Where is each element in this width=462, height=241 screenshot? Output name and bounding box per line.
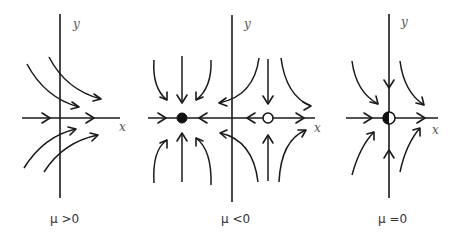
panel-mu-zero: y x μ =0 [346,14,439,226]
trajectory-curve [44,135,98,172]
trajectory-curve [352,132,374,175]
x-axis-label: x [314,121,321,135]
trajectory-curve [220,133,258,182]
y-axis-label: y [72,17,80,31]
trajectory-curve [154,60,167,100]
panel-mu-negative: y x μ [148,15,321,226]
x-axis-label: x [119,120,126,134]
trajectory-curve [400,61,424,105]
phase-portrait-figure: y x μ >0 y x [0,0,462,241]
trajectory-curve [400,128,420,172]
trajectory-curve [49,57,101,99]
trajectory-curve [24,129,76,168]
trajectory-curve [279,130,306,182]
panel-caption: μ <0 [221,212,250,226]
x-axis-label: x [432,123,439,137]
arrow-head [303,102,311,110]
trajectory-curve [281,58,311,106]
trajectory-curve [352,61,378,104]
trajectory-curve [196,138,211,185]
trajectory-curve [196,60,211,100]
y-axis-label: y [243,17,251,31]
saddle-point [263,113,273,123]
panel-mu-positive: y x μ >0 [22,14,126,226]
trajectory-curve [219,58,259,103]
trajectory-curve [154,140,167,183]
stable-node-point [177,113,187,123]
panel-caption: μ =0 [378,212,407,226]
panel-caption: μ >0 [50,212,79,226]
y-axis-label: y [400,15,408,29]
